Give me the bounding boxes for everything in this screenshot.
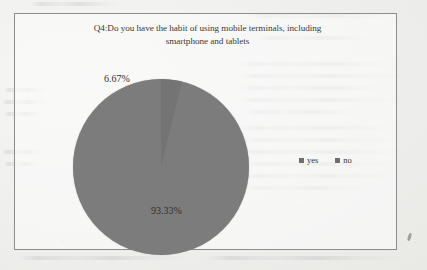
pie-chart bbox=[59, 66, 263, 246]
legend-label-yes: yes bbox=[307, 156, 318, 165]
scanned-page-background: Q4:Do you have the habit of using mobile… bbox=[0, 0, 427, 270]
stray-ink-mark bbox=[407, 233, 412, 242]
legend-item-no[interactable]: no bbox=[335, 156, 352, 165]
chart-title: Q4:Do you have the habit of using mobile… bbox=[45, 22, 370, 47]
square-marker-icon bbox=[299, 158, 304, 163]
legend-label-no: no bbox=[343, 156, 352, 165]
chart-legend: yes no bbox=[299, 156, 352, 165]
square-marker-icon bbox=[335, 158, 340, 163]
data-label-yes: 93.33% bbox=[151, 205, 182, 216]
data-label-no: 6.67% bbox=[104, 73, 130, 84]
legend-item-yes[interactable]: yes bbox=[299, 156, 318, 165]
chart-frame: Q4:Do you have the habit of using mobile… bbox=[14, 13, 397, 250]
chart-title-line-1: Q4:Do you have the habit of using mobile… bbox=[45, 22, 370, 35]
chart-title-line-2: smartphone and tablets bbox=[45, 35, 370, 48]
